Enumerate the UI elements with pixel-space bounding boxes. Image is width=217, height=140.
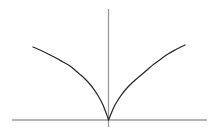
plot-canvas	[0, 0, 217, 140]
plot-figure	[0, 0, 217, 140]
